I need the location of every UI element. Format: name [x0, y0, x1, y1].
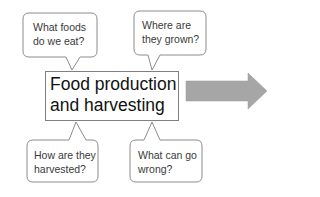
main-topic-line: and harvesting — [50, 95, 176, 116]
bubble-text-how-harvested: How are they harvested? — [34, 148, 96, 176]
right-arrow-icon — [186, 73, 267, 109]
bubble-line: do we eat? — [33, 34, 86, 48]
bubble-line: wrong? — [138, 162, 197, 176]
bubble-text-what-wrong: What can go wrong? — [138, 148, 197, 176]
bubble-line: What foods — [33, 20, 86, 34]
main-topic-line: Food production — [50, 74, 176, 95]
bubble-line: How are they — [34, 148, 96, 162]
bubble-text-what-foods: What foods do we eat? — [33, 20, 86, 48]
bubble-line: they grown? — [142, 32, 199, 46]
main-topic-text: Food production and harvesting — [50, 74, 176, 116]
bubble-text-where-grown: Where are they grown? — [142, 18, 199, 46]
bubble-line: Where are — [142, 18, 199, 32]
bubble-line: What can go — [138, 148, 197, 162]
bubble-line: harvested? — [34, 162, 96, 176]
